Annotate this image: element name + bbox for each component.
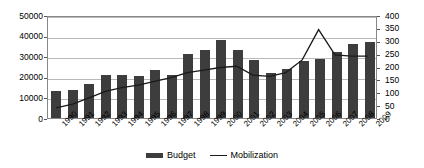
x-axis-tick-label: 2003: [275, 122, 281, 128]
x-axis-tick-label: 2000: [225, 122, 231, 128]
y-axis-right-tick-label: 400: [385, 12, 421, 21]
y-axis-left-tick-mark: [44, 57, 47, 58]
legend-label-mobilization: Mobilization: [231, 150, 279, 160]
y-axis-left-tick-mark: [44, 98, 47, 99]
x-axis-tick-label: 2002: [258, 122, 264, 128]
x-axis-tick-label: 2001: [242, 122, 248, 128]
x-axis-tick-label: 2006: [324, 122, 330, 128]
y-axis-left-tick-label: 10000: [3, 94, 43, 103]
y-axis-right-tick-mark: [377, 42, 380, 43]
y-axis-left-tick-mark: [44, 16, 47, 17]
y-axis-right-tick-mark: [377, 29, 380, 30]
y-axis-left-tick-mark: [44, 78, 47, 79]
y-axis-right-tick-label: 250: [385, 50, 421, 59]
x-axis-tick-label: 1990: [60, 122, 66, 128]
y-axis-right-tick-mark: [377, 55, 380, 56]
y-axis-right-tick-mark: [377, 68, 380, 69]
y-axis-right-tick-label: 300: [385, 37, 421, 46]
y-axis-right-tick-label: 150: [385, 76, 421, 85]
y-axis-right-tick-mark: [377, 93, 380, 94]
legend-label-budget: Budget: [167, 150, 196, 160]
y-axis-right-tick-mark: [377, 16, 380, 17]
y-axis-right-tick-mark: [377, 106, 380, 107]
chart-legend: Budget Mobilization: [0, 150, 424, 160]
x-axis-tick-label: 1994: [126, 122, 132, 128]
y-axis-left-tick-label: 20000: [3, 73, 43, 82]
y-axis-right-tick-label: 200: [385, 63, 421, 72]
x-axis-tick-label: 1998: [192, 122, 198, 128]
x-axis-tick-label: 1992: [93, 122, 99, 128]
legend-item-budget[interactable]: Budget: [146, 150, 196, 160]
legend-line-swatch-icon: [210, 155, 227, 156]
y-axis-right-tick-label: 50: [385, 102, 421, 111]
x-axis-tick-label: 1997: [176, 122, 182, 128]
x-axis-tick-label: 2007: [341, 122, 347, 128]
y-axis-left-tick-label: 0: [3, 115, 43, 124]
x-axis-tick-label: 1996: [159, 122, 165, 128]
y-axis-left-tick-mark: [44, 37, 47, 38]
x-axis-tick-label: 1991: [77, 122, 83, 128]
y-axis-right-tick-mark: [377, 80, 380, 81]
x-axis-tick-label: 2008: [357, 122, 363, 128]
y-axis-right-tick-label: 100: [385, 89, 421, 98]
plot-area: [47, 16, 377, 119]
legend-item-mobilization[interactable]: Mobilization: [210, 150, 279, 160]
y-axis-left-tick-label: 30000: [3, 53, 43, 62]
x-axis-tick-label: 1999: [209, 122, 215, 128]
legend-bar-swatch-icon: [146, 153, 163, 158]
x-axis-tick-label: 2009: [374, 122, 380, 128]
line-series-mobilization: [48, 17, 376, 118]
x-axis-tick-label: 1993: [110, 122, 116, 128]
y-axis-right-tick-label: 350: [385, 24, 421, 33]
x-axis-tick-label: 1995: [143, 122, 149, 128]
y-axis-left-tick-label: 50000: [3, 12, 43, 21]
x-axis-tick-label: 2004: [291, 122, 297, 128]
x-axis-tick-label: 2005: [308, 122, 314, 128]
chart-container: 50000400003000020000100000 4003503002502…: [0, 0, 424, 168]
x-axis-category-labels: 1990199119921993199419951996199719981999…: [47, 120, 377, 152]
y-axis-left-tick-label: 40000: [3, 32, 43, 41]
